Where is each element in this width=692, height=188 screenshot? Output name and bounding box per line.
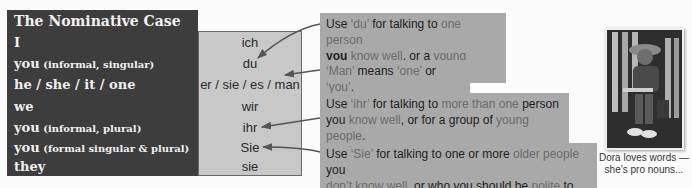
callout-highlight: ‘Man’ [326,64,354,78]
callout-text: you [326,163,345,177]
callout-text: , or who you should be [407,179,531,188]
callout-text: . [351,80,354,94]
caption-line: she’s pro nouns... [596,164,692,176]
dora-photo [605,28,684,150]
caption-line: Dora loves words — [596,152,692,164]
callout-text: Use [326,17,351,31]
callout-text: Use [326,147,351,161]
callout-text: Use [326,97,351,111]
callout-highlight: polite [531,179,560,188]
callout-highlight: ‘du’ [351,17,369,31]
callout-text: to. [560,179,577,188]
callout-sie: Use ‘Sie’ for talking to one or more old… [320,143,597,188]
callout-text: for talking to one or more [373,147,513,161]
callout-highlight: ‘you’ [326,80,351,94]
photo-caption: Dora loves words — she’s pro nouns... [596,152,692,176]
callout-ihr: Use ‘ihr’ for talking to more than one p… [320,93,569,147]
callout-highlight: know well [349,113,401,127]
callout-text: you [326,113,349,127]
callout-highlight: don’t know well [326,179,407,188]
callout-text: . [362,129,365,143]
callout-text: for talking to [369,17,441,31]
callout-highlight: ‘one’ [397,64,422,78]
girl-reading-illustration [607,30,682,148]
callout-text: for talking to [369,97,441,111]
callout-highlight: ‘Sie’ [351,147,373,161]
callout-text: or [422,64,436,78]
callout-highlight: ‘ihr’ [351,97,370,111]
callout-text: means [354,64,397,78]
callout-highlight: older people [513,147,579,161]
callout-highlight: more than one [441,97,518,111]
callout-text: person [519,97,559,111]
callout-text: , or for a group of [401,113,496,127]
